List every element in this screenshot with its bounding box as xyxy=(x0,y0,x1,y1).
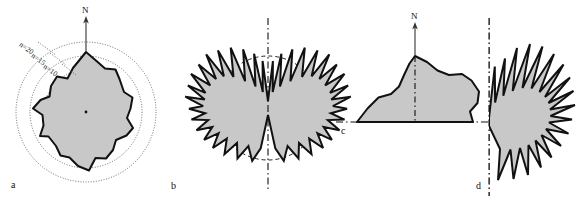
figure-canvas xyxy=(0,0,585,200)
panel-letter-a: a xyxy=(11,180,15,190)
panel-b xyxy=(185,18,351,192)
panel-c-data-polygon xyxy=(357,56,479,122)
figure-rose-diagrams: N n=20 n=15 n=10 a b N c d xyxy=(0,0,585,200)
panel-a-center-dot xyxy=(85,111,88,114)
panel-a-north-label: N xyxy=(82,6,89,15)
panel-a xyxy=(16,16,156,182)
panel-d xyxy=(489,18,575,196)
panel-c xyxy=(336,22,490,122)
panel-letter-b: b xyxy=(171,181,176,191)
panel-letter-d: d xyxy=(476,181,481,191)
panel-c-north-label: N xyxy=(411,12,418,21)
panel-letter-c: c xyxy=(341,126,345,136)
panel-d-data-polygon xyxy=(489,44,575,180)
